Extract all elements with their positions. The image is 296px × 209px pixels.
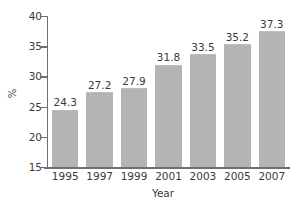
bar[interactable] — [190, 54, 216, 167]
bar-group: 35.2 — [220, 16, 254, 167]
bar-value-label: 31.8 — [151, 52, 185, 63]
x-tick-label: 2007 — [255, 171, 289, 182]
bar-value-label: 37.3 — [255, 19, 289, 30]
bar-value-label: 27.2 — [82, 80, 116, 91]
bar[interactable] — [224, 44, 250, 167]
bar-value-label: 27.9 — [117, 76, 151, 87]
bar-chart: % 152025303540 24.327.227.931.833.535.23… — [0, 0, 296, 209]
bar-group: 27.2 — [82, 16, 116, 167]
bar[interactable] — [86, 92, 112, 167]
y-axis-label: % — [7, 84, 18, 104]
y-tick-label: 35 — [20, 41, 42, 52]
x-tick-label: 1995 — [48, 171, 82, 182]
y-tick-label: 30 — [20, 71, 42, 82]
bar[interactable] — [259, 31, 285, 167]
x-tick-label: 2001 — [151, 171, 185, 182]
y-tick-mark — [41, 137, 48, 138]
y-tick-mark — [41, 107, 48, 108]
y-axis-ticks: 152025303540 — [18, 0, 42, 209]
bar-value-label: 33.5 — [186, 42, 220, 53]
bar-group: 31.8 — [151, 16, 185, 167]
y-tick-label: 15 — [20, 162, 42, 173]
y-tick-mark — [41, 76, 48, 77]
bar-group: 24.3 — [48, 16, 82, 167]
y-tick-label: 20 — [20, 132, 42, 143]
plot-area: 24.327.227.931.833.535.237.3 — [48, 16, 289, 167]
x-axis-label: Year — [0, 187, 296, 199]
x-tick-label: 1997 — [82, 171, 116, 182]
bar-value-label: 35.2 — [220, 32, 254, 43]
bar-value-label: 24.3 — [48, 97, 82, 108]
x-tick-label: 2003 — [186, 171, 220, 182]
x-tick-label: 1999 — [117, 171, 151, 182]
bar-group: 33.5 — [186, 16, 220, 167]
bar-group: 27.9 — [117, 16, 151, 167]
x-axis-line — [44, 167, 290, 169]
bar[interactable] — [52, 110, 78, 167]
y-tick-label: 25 — [20, 102, 42, 113]
x-axis-label-text: Year — [152, 187, 174, 199]
bar-group: 37.3 — [255, 16, 289, 167]
bar[interactable] — [121, 88, 147, 167]
y-tick-mark — [41, 46, 48, 47]
y-tick-mark — [41, 167, 48, 168]
y-tick-label: 40 — [20, 11, 42, 22]
bar[interactable] — [155, 65, 181, 167]
x-tick-label: 2005 — [220, 171, 254, 182]
y-tick-mark — [41, 16, 48, 17]
